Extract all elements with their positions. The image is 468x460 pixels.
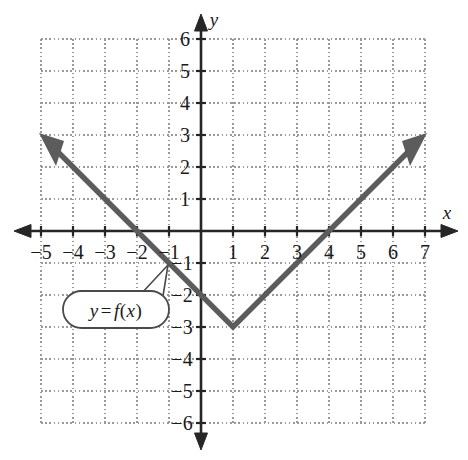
callout-close-paren: ) xyxy=(135,300,142,321)
y-tick-label--4: −4 xyxy=(171,349,192,369)
x-tick-label--4: −4 xyxy=(62,242,83,262)
x-tick-label--5: −5 xyxy=(30,242,51,262)
y-tick-label-4: 4 xyxy=(180,93,190,113)
axes xyxy=(14,14,458,450)
y-tick-label-3: 3 xyxy=(180,125,190,145)
coordinate-plane-svg xyxy=(0,0,468,460)
y-tick-label-6: 6 xyxy=(180,29,190,49)
x-tick-label-3: 3 xyxy=(292,242,302,262)
x-tick-label--2: −2 xyxy=(126,242,147,262)
callout-arg: x xyxy=(127,300,136,321)
x-tick-label-6: 6 xyxy=(388,242,398,262)
x-tick-label-2: 2 xyxy=(260,242,270,262)
y-tick-label--5: −5 xyxy=(171,381,192,401)
x-tick-label-1: 1 xyxy=(228,242,238,262)
y-tick-label--2: −2 xyxy=(171,285,192,305)
y-tick-label-5: 5 xyxy=(180,61,190,81)
y-axis-label: y xyxy=(210,10,218,29)
y-tick-label-1: 1 xyxy=(180,189,190,209)
y-tick-label--3: −3 xyxy=(171,317,192,337)
y-tick-label--1: −1 xyxy=(171,253,192,273)
callout-open-paren: ( xyxy=(120,300,127,321)
y-axis-arrow-down xyxy=(195,433,208,450)
y-tick-label--6: −6 xyxy=(171,413,192,433)
x-tick-label-7: 7 xyxy=(420,242,430,262)
x-axis-arrow-left xyxy=(14,225,31,238)
x-tick-label-4: 4 xyxy=(324,242,334,262)
y-tick-label-2: 2 xyxy=(180,157,190,177)
curve-arrow-left xyxy=(39,133,64,166)
x-tick-label-5: 5 xyxy=(356,242,366,262)
curve-arrow-right xyxy=(402,133,427,166)
callout-operator: = xyxy=(99,300,114,321)
x-axis-label: x xyxy=(443,203,451,222)
callout-lhs: y xyxy=(90,300,99,321)
y-axis-arrow-up xyxy=(195,14,208,31)
x-axis-arrow-right xyxy=(441,225,458,238)
x-tick-label--3: −3 xyxy=(94,242,115,262)
graph-figure: −5 −4 −3 −2 −1 1 2 3 4 5 6 7 6 5 4 3 2 1… xyxy=(0,0,468,460)
callout-label: y=f(x) xyxy=(90,301,143,320)
